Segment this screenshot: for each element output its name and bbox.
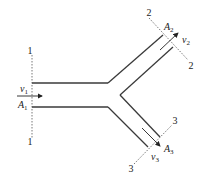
section-2-label-start: 2 bbox=[147, 7, 152, 18]
section-1-label-top: 1 bbox=[28, 45, 33, 56]
pipe-junction-diagram: 1 1 v1 A1 2 2 A2 v2 3 3 A3 v3 bbox=[0, 0, 203, 183]
branch2-outer-wall bbox=[108, 35, 163, 83]
section-3-label-start: 3 bbox=[173, 115, 178, 126]
velocity-1-label: v1 bbox=[20, 83, 28, 96]
velocity-2-label: v2 bbox=[182, 34, 190, 47]
area-1-label: A1 bbox=[17, 99, 28, 112]
branch3-outer-wall bbox=[108, 107, 148, 147]
velocity-3-label: v3 bbox=[151, 151, 159, 164]
section-1-label-bottom: 1 bbox=[28, 136, 33, 147]
branch3-inner-wall bbox=[120, 95, 160, 137]
area-2-label: A2 bbox=[163, 21, 174, 34]
area-3-label: A3 bbox=[163, 143, 174, 156]
section-2-label-end: 2 bbox=[189, 60, 194, 71]
section-3-label-end: 3 bbox=[129, 163, 134, 174]
branch2-inner-wall bbox=[120, 47, 173, 95]
